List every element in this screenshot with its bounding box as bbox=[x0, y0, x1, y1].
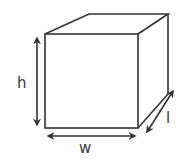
length-label: l bbox=[166, 109, 170, 127]
length-dimension: l bbox=[147, 91, 173, 132]
top-face bbox=[45, 14, 168, 34]
height-label: h bbox=[17, 74, 27, 92]
box-diagram: h w l bbox=[0, 0, 181, 161]
front-face bbox=[45, 34, 138, 128]
width-label: w bbox=[79, 139, 91, 157]
cube bbox=[45, 14, 168, 128]
height-dimension: h bbox=[17, 38, 37, 125]
width-dimension: w bbox=[48, 136, 135, 157]
